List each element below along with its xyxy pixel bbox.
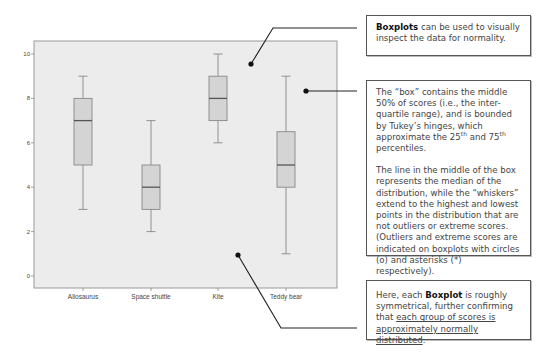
- y-tick-label: 2: [27, 229, 31, 235]
- y-tick-label: 6: [27, 140, 31, 146]
- x-category-label: Teddy bear: [270, 293, 303, 301]
- callout-paragraph-iqr: The “box” contains the middle 50% of sco…: [376, 87, 521, 154]
- y-tick-label: 8: [27, 95, 31, 101]
- iqr-box: [277, 132, 295, 188]
- callout-symmetry: Here, each Boxplot is roughly symmetrica…: [366, 280, 531, 340]
- callout-paragraph-median: The line in the middle of the box repres…: [376, 165, 521, 277]
- callout-box-explanation: The “box” contains the middle 50% of sco…: [366, 80, 531, 256]
- y-tick-label: 0: [27, 273, 31, 279]
- pointer-dot: [235, 252, 240, 257]
- y-axis: 0246810: [23, 51, 34, 279]
- x-category-label: Allosaurus: [68, 293, 99, 300]
- x-category-label: Space shuttle: [131, 293, 171, 301]
- callout-bold: Boxplots: [376, 22, 418, 32]
- x-axis: AllosaurusSpace shuttleKiteTeddy bear: [68, 288, 303, 301]
- pointer-dot: [303, 88, 308, 93]
- callout-normality: Boxplots can be used to visually inspect…: [366, 15, 531, 56]
- y-tick-label: 4: [27, 184, 31, 190]
- y-tick-label: 10: [23, 51, 30, 57]
- callout-bold: Boxplot: [425, 290, 462, 300]
- x-category-label: Kite: [212, 293, 224, 300]
- iqr-box: [74, 98, 92, 165]
- pointer-dot: [248, 61, 253, 66]
